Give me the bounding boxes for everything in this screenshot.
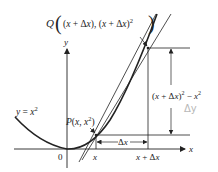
dx-label: Δx [118,137,128,147]
q-open-paren: ( [55,12,62,35]
parabola-curve [15,14,157,149]
dy-handwritten-annotation: Δy [184,103,197,114]
q-letter: Q [46,17,54,29]
origin-label: 0 [58,152,63,162]
q-close-paren: ) [148,12,155,35]
p-pointer [90,128,95,133]
point-p [95,134,98,137]
tick-x-plus-dx: x + Δx [135,152,159,162]
tick-x: x [92,152,97,162]
dy-expression: (x + Δx)2 − x2 [152,90,201,101]
q-coords: (x + Δx), (x + Δx)2 [63,17,133,30]
point-q [147,47,150,50]
p-label: P(x, x2) [65,115,95,128]
curve-label: y = x2 [15,105,38,117]
x-axis-label: x [188,144,193,154]
derivative-diagram: Q ( (x + Δx), (x + Δx)2 ) y x 0 y = x2 P… [0,0,218,172]
y-axis-label: y [63,37,68,47]
